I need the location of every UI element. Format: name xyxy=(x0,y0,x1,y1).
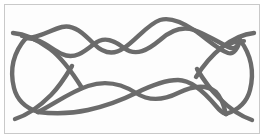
right-closing-arc xyxy=(226,40,252,114)
knot-diagram-canvas xyxy=(0,0,266,140)
knot-figure-root: Hand-drawn closed braid knot diagram wit… xyxy=(0,0,266,140)
left-closing-arc xyxy=(12,38,38,112)
knot-strand-group xyxy=(12,19,254,120)
